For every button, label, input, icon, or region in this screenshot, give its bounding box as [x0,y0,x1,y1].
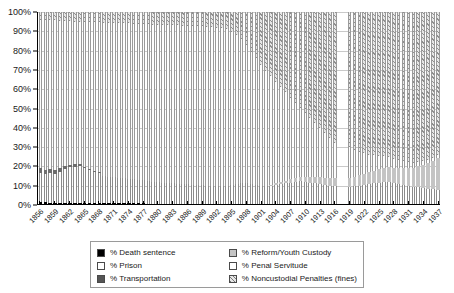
bar-segment-reform [318,177,322,184]
bar-segment-reform [412,168,416,187]
legend-swatch-death-sentence [97,249,105,257]
stacked-column [171,12,175,204]
bar-segment-reform [367,172,371,184]
bar-segment-prison [147,181,151,204]
bar-segment-prison [313,183,317,203]
bar-segment-prison [68,167,72,203]
stacked-column [348,12,352,204]
stacked-column [323,12,327,204]
stacked-column [63,12,67,204]
stacked-column [279,12,283,204]
bar-segment-fines [382,12,386,156]
x-axis-tick-mark [364,201,365,205]
bar-segment-fines [107,12,111,23]
bar-segment-prison [367,184,371,204]
x-axis-tick-label: 1931 [396,207,414,225]
bar-segment-prison [132,179,136,203]
stacked-column [166,12,170,204]
bar-segment-reform [392,168,396,184]
bar-segment-fines [102,12,106,23]
bar-segment-penal [274,82,278,184]
y-axis-tick-label: 50% [13,104,31,114]
bar-segment-fines [186,12,190,26]
bar-segment-death [122,203,126,204]
bar-segment-penal [245,45,249,183]
x-axis-tick-mark [320,201,321,205]
legend-swatch-reform-youth-custody [229,249,237,257]
bar-segment-penal [151,25,155,182]
bar-segment-prison [279,184,283,204]
bar-segment-penal [294,103,298,178]
bar-segment-prison [39,173,43,202]
x-axis-tick-label: 1910 [293,207,311,225]
bar-segment-fines [161,12,165,25]
stacked-column [259,12,263,204]
bar-segment-fines [205,12,209,27]
y-axis-tick-label: 10% [13,181,31,191]
bar-segment-fines [156,12,160,25]
bar-segment-fines [122,12,126,23]
bar-segment-reform [333,178,337,186]
x-axis-tick-label: 1898 [234,207,252,225]
bar-segment-fines [176,12,180,25]
bar-segment-fines [166,12,170,25]
bar-segment-fines [323,12,327,133]
bar-segment-fines [377,12,381,156]
bar-segment-prison [196,185,200,203]
bar-segment-penal [308,118,312,177]
bar-segment-fines [142,12,146,24]
x-axis-tick-mark [128,201,129,205]
x-axis-tick-mark [54,201,55,205]
bar-segment-fines [416,12,420,162]
bar-segment-fines [362,12,366,153]
bar-segment-prison [426,189,430,204]
stacked-column [186,12,190,204]
bar-segment-reform [372,171,376,184]
x-axis-tick-label: 1874 [116,207,134,225]
bar-segment-reform [421,165,425,188]
bar-segment-fines [58,12,62,21]
bar-segment-fines [284,12,288,92]
bar-segment-prison [255,185,259,204]
bar-segment-fines [44,12,48,20]
stacked-column [328,12,332,204]
bar-segment-penal [382,156,386,168]
bar-segment-penal [323,133,327,177]
stacked-column [117,12,121,204]
bar-segment-prison [387,182,391,203]
bar-segment-penal [215,28,219,186]
bar-segment-penal [250,52,254,184]
bar-segment-prison [122,178,126,203]
x-axis-tick-label: 1919 [337,207,355,225]
bar-segment-penal [176,25,180,183]
bar-segment-penal [333,143,337,178]
stacked-column [58,12,62,204]
bar-segment-penal [235,35,239,184]
bar-segment-penal [255,58,259,185]
legend-swatch-noncustodial-penalties [229,275,237,283]
bar-segment-fines [137,12,141,24]
bar-segment-fines [151,12,155,24]
stacked-column [294,12,298,204]
bar-segment-prison [235,184,239,204]
bar-segment-prison [205,186,209,204]
stacked-column [436,12,440,204]
bar-segment-fines [387,12,391,157]
bar-segment-penal [48,20,52,169]
stacked-column [88,12,92,204]
x-axis-tick-label: 1922 [352,207,370,225]
bar-segment-penal [73,22,77,165]
bar-segment-reform [382,168,386,182]
bar-segment-prison [73,167,77,203]
legend-item-label: % Reform/Youth Custody [242,248,332,257]
stacked-column [333,12,337,204]
stacked-column [289,12,293,204]
bar-segment-penal [220,28,224,186]
stacked-column [132,12,136,204]
stacked-column [387,12,391,204]
bar-segment-penal [284,92,288,180]
stacked-column [127,12,131,204]
stacked-column [215,12,219,204]
x-axis-tick-mark [393,201,394,205]
bar-segment-fines [348,12,352,147]
